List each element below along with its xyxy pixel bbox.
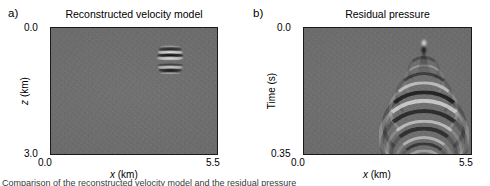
panel-b-xtick-left: 0.0 xyxy=(291,158,305,168)
panel-b-ytick-top: 0.0 xyxy=(277,23,291,33)
figure-root: a) Reconstructed velocity model 0.0 3.0 … xyxy=(0,0,490,186)
panel-a-plot-area xyxy=(50,27,218,155)
panel-b-yaxis-title: Time (s) xyxy=(267,60,277,122)
panel-a-title: Reconstructed velocity model xyxy=(50,9,218,20)
panel-b-plot-area xyxy=(303,27,472,155)
panel-b-title: Residual pressure xyxy=(303,9,472,20)
panel-a-ytick-top: 0.0 xyxy=(24,23,38,33)
panel-b-xtick-right: 5.5 xyxy=(459,158,473,168)
panel-a-yaxis-symbol: z xyxy=(19,100,30,105)
panel-a-yaxis-unit: (km) xyxy=(19,77,30,100)
panel-a-yaxis-title: z (km) xyxy=(20,61,30,121)
panel-b-vignette xyxy=(304,28,471,154)
panel-a-vignette xyxy=(51,28,217,154)
figure-caption: Comparison of the reconstructed velocity… xyxy=(2,178,488,186)
panel-b-ytick-bottom: 0.35 xyxy=(271,149,290,159)
panel-b-yaxis-unit: Time (s) xyxy=(266,73,277,109)
panel-b-letter: b) xyxy=(253,8,263,20)
panel-b: b) Residual pressure 0.0 0.35 0.0 5.5 x … xyxy=(245,0,490,186)
panel-a: a) Reconstructed velocity model 0.0 3.0 … xyxy=(0,0,245,186)
panel-a-xtick-right: 5.5 xyxy=(206,158,220,168)
panel-a-xtick-left: 0.0 xyxy=(38,158,52,168)
panel-a-ytick-bottom: 3.0 xyxy=(24,149,38,159)
panel-a-letter: a) xyxy=(8,8,18,20)
